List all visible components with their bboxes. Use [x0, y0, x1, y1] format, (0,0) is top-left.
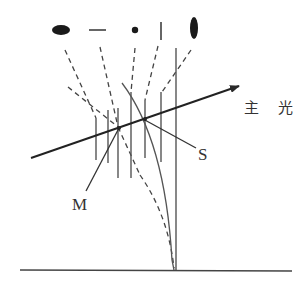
filled-vertical-ellipse-icon: [190, 17, 198, 39]
point-s-dot: [143, 117, 147, 121]
baseline: [20, 270, 292, 271]
small-dot-icon: [132, 27, 138, 33]
filled-horizontal-ellipse-icon: [52, 25, 70, 35]
top-symbols: [52, 17, 198, 40]
point-m-dot: [117, 126, 121, 130]
point-m-label: M: [72, 196, 87, 213]
ray-diagram: [0, 0, 301, 294]
main-light-arrow: [31, 86, 239, 158]
dashed-rays: [65, 46, 191, 268]
s-pointer-line: [143, 119, 196, 148]
point-s-label: S: [198, 146, 207, 163]
main-light-label: 主 光: [244, 101, 300, 116]
vertical-lines: [96, 48, 176, 270]
